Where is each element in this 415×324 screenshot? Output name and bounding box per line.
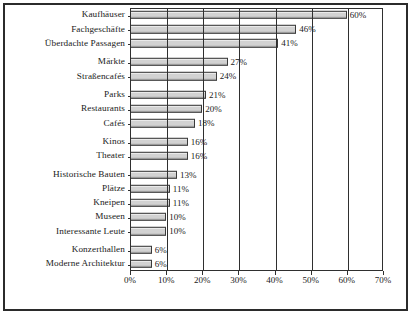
bar-value-label: 16% bbox=[188, 151, 208, 160]
bar-track: 6% bbox=[130, 243, 383, 257]
bar-value-label: 24% bbox=[217, 72, 237, 81]
x-axis-tick-label: 70% bbox=[375, 276, 392, 285]
bar bbox=[130, 58, 228, 66]
category-label: Parks bbox=[8, 90, 130, 99]
bar-value-label: 6% bbox=[152, 245, 167, 254]
bar-track: 16% bbox=[130, 135, 383, 149]
bar-row: Fachgeschäfte46% bbox=[8, 22, 397, 36]
bar bbox=[130, 72, 217, 80]
x-axis-tick-label: 20% bbox=[194, 276, 211, 285]
bar-row: Kaufhäuser60% bbox=[8, 8, 397, 22]
bar-track: 16% bbox=[130, 149, 383, 163]
bar-track: 10% bbox=[130, 210, 383, 224]
category-label: Fachgeschäfte bbox=[8, 25, 130, 34]
bar bbox=[130, 227, 166, 235]
category-label: Straßencafés bbox=[8, 72, 130, 81]
category-label: Historische Bauten bbox=[8, 170, 130, 179]
bar bbox=[130, 152, 188, 160]
bar-row: Theater16% bbox=[8, 149, 397, 163]
x-axis-tick-label: 0% bbox=[124, 276, 136, 285]
bar-value-label: 6% bbox=[152, 260, 167, 269]
bar-track: 10% bbox=[130, 224, 383, 238]
bar-value-label: 10% bbox=[166, 227, 186, 236]
bar-row: Märkte27% bbox=[8, 55, 397, 69]
bar-track: 11% bbox=[130, 182, 383, 196]
bar-chart: Kaufhäuser60%Fachgeschäfte46%Überdachte … bbox=[8, 8, 397, 300]
x-axis: 0%10%20%30%40%50%60%70% bbox=[130, 271, 383, 287]
x-axis-tick-label: 30% bbox=[230, 276, 247, 285]
bar-track: 60% bbox=[130, 8, 383, 22]
category-label: Märkte bbox=[8, 57, 130, 66]
bar-row: Cafés18% bbox=[8, 116, 397, 130]
bar bbox=[130, 25, 296, 33]
bar bbox=[130, 260, 152, 268]
category-label: Kinos bbox=[8, 137, 130, 146]
bar-track: 20% bbox=[130, 102, 383, 116]
bar-track: 6% bbox=[130, 257, 383, 271]
bar bbox=[130, 138, 188, 146]
bar-value-label: 27% bbox=[228, 58, 248, 67]
bar-value-label: 60% bbox=[347, 11, 367, 20]
bar-value-label: 13% bbox=[177, 170, 197, 179]
chart-rows: Kaufhäuser60%Fachgeschäfte46%Überdachte … bbox=[8, 8, 397, 271]
category-label: Theater bbox=[8, 151, 130, 160]
bar-value-label: 18% bbox=[195, 119, 215, 128]
bar-value-label: 41% bbox=[278, 39, 298, 48]
bar-row: Restaurants20% bbox=[8, 102, 397, 116]
bar bbox=[130, 105, 202, 113]
bar-track: 24% bbox=[130, 69, 383, 83]
category-label: Plätze bbox=[8, 184, 130, 193]
category-label: Museen bbox=[8, 212, 130, 221]
bar-row: Historische Bauten13% bbox=[8, 167, 397, 181]
bar bbox=[130, 170, 177, 178]
bar-row: Moderne Architektur6% bbox=[8, 257, 397, 271]
bar-track: 21% bbox=[130, 88, 383, 102]
bar bbox=[130, 246, 152, 254]
bar-track: 13% bbox=[130, 167, 383, 181]
category-label: Kaufhäuser bbox=[8, 10, 130, 19]
bar bbox=[130, 213, 166, 221]
bar-row: Museen10% bbox=[8, 210, 397, 224]
bar-track: 27% bbox=[130, 55, 383, 69]
bar-row: Straßencafés24% bbox=[8, 69, 397, 83]
x-axis-tick-label: 50% bbox=[302, 276, 319, 285]
category-label: Konzerthallen bbox=[8, 245, 130, 254]
x-axis-tick-label: 10% bbox=[158, 276, 175, 285]
bar bbox=[130, 91, 206, 99]
bar-row: Überdachte Passagen41% bbox=[8, 36, 397, 50]
bar-row: Interessante Leute10% bbox=[8, 224, 397, 238]
bar-row: Parks21% bbox=[8, 88, 397, 102]
bar-value-label: 16% bbox=[188, 137, 208, 146]
bar-value-label: 10% bbox=[166, 213, 186, 222]
x-axis-tick-label: 40% bbox=[266, 276, 283, 285]
bar-row: Kneipen11% bbox=[8, 196, 397, 210]
bar-row: Konzerthallen6% bbox=[8, 243, 397, 257]
figure: Kaufhäuser60%Fachgeschäfte46%Überdachte … bbox=[0, 0, 415, 324]
category-label: Restaurants bbox=[8, 104, 130, 113]
bar-value-label: 11% bbox=[170, 198, 189, 207]
bar bbox=[130, 119, 195, 127]
bar-value-label: 20% bbox=[202, 105, 222, 114]
bar bbox=[130, 39, 278, 47]
bar bbox=[130, 185, 170, 193]
bar-track: 11% bbox=[130, 196, 383, 210]
bar bbox=[130, 199, 170, 207]
bar-track: 18% bbox=[130, 116, 383, 130]
bar-value-label: 21% bbox=[206, 90, 226, 99]
bar-row: Plätze11% bbox=[8, 182, 397, 196]
bar-value-label: 46% bbox=[296, 25, 316, 34]
bar-track: 46% bbox=[130, 22, 383, 36]
bar bbox=[130, 11, 347, 19]
x-axis-tick-label: 60% bbox=[339, 276, 356, 285]
category-label: Cafés bbox=[8, 119, 130, 128]
category-label: Überdachte Passagen bbox=[8, 39, 130, 48]
bar-row: Kinos16% bbox=[8, 135, 397, 149]
bar-value-label: 11% bbox=[170, 184, 189, 193]
category-label: Moderne Architektur bbox=[8, 259, 130, 268]
category-label: Kneipen bbox=[8, 198, 130, 207]
category-label: Interessante Leute bbox=[8, 227, 130, 236]
bar-track: 41% bbox=[130, 36, 383, 50]
